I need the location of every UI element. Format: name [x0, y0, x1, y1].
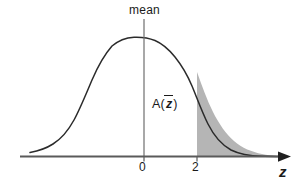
area-label-suffix: ) — [173, 97, 177, 111]
area-label-prefix: A( — [152, 97, 165, 111]
axis-label-z: z — [279, 164, 287, 179]
area-label-variable: z — [165, 97, 173, 111]
mean-label: mean — [0, 4, 289, 16]
normal-distribution-chart — [0, 0, 303, 183]
shaded-tail-area — [197, 72, 276, 156]
tick-label-2: 2 — [192, 161, 199, 173]
area-label: A(z) — [152, 98, 178, 111]
tick-label-0: 0 — [139, 161, 146, 173]
axis-arrowhead-icon — [278, 151, 291, 161]
